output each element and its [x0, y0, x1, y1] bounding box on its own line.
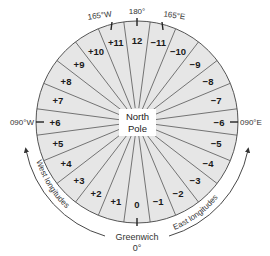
zone-number: −7 [211, 95, 222, 106]
north-pole-label-line2: Pole [128, 123, 147, 134]
zone-number: +4 [61, 158, 73, 169]
zone-number: +2 [91, 188, 102, 199]
zone-number: 12 [132, 35, 143, 46]
zone-number: −6 [214, 117, 225, 128]
zone-number: +7 [52, 95, 63, 106]
time-zone-diagram: 12−11−10−9−8−7−6−5−4−3−2−10+1+2+3+4+5+6+… [0, 0, 270, 256]
zone-number: +9 [74, 59, 85, 70]
tick-165e [162, 22, 163, 30]
zone-number: +5 [52, 138, 64, 149]
zone-number: +8 [61, 76, 72, 87]
zone-number: 0 [134, 199, 139, 210]
zone-number: −10 [170, 46, 186, 57]
zone-number: +10 [88, 46, 104, 57]
zone-number: −1 [153, 196, 165, 207]
label-165w: 165°W [87, 9, 113, 21]
label-090w: 090°W [10, 118, 35, 127]
zone-number: −2 [173, 188, 184, 199]
zone-number: +3 [74, 175, 85, 186]
north-pole-label-line1: North [126, 111, 149, 122]
zone-number: −3 [190, 175, 201, 186]
zone-number: −4 [203, 158, 215, 169]
label-greenwich: Greenwich [115, 232, 158, 242]
zone-number: +1 [110, 196, 122, 207]
label-090e: 090°E [240, 118, 262, 127]
zone-number: +11 [108, 37, 124, 48]
tick-165w [111, 22, 112, 30]
zone-number: −5 [211, 138, 223, 149]
zone-number: −11 [150, 37, 166, 48]
zone-number: −9 [190, 59, 201, 70]
label-180: 180° [129, 7, 146, 16]
zone-number: −8 [203, 76, 214, 87]
label-greenwich-degree: 0° [133, 243, 142, 253]
zone-number: +6 [50, 117, 61, 128]
label-165e: 165°E [163, 10, 186, 22]
